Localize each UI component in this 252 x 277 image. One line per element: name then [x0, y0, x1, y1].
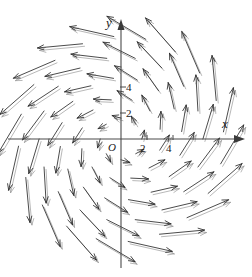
- x-axis-label: x: [222, 117, 228, 130]
- vector-field-figure: y x O 2 4 2 4: [0, 0, 252, 277]
- axes-group: [8, 19, 245, 268]
- origin-label: O: [108, 142, 116, 153]
- vector-field-canvas: [0, 0, 252, 277]
- x-tick-label-2: 2: [140, 143, 146, 154]
- y-axis-label: y: [106, 16, 112, 29]
- y-tick-label-4: 4: [126, 82, 132, 93]
- x-tick-label-4: 4: [166, 143, 172, 154]
- y-tick-label-2: 2: [126, 108, 132, 119]
